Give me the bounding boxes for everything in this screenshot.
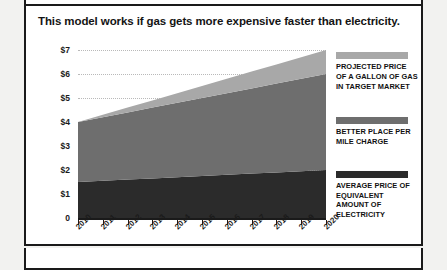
page-frame-bottom	[24, 248, 423, 270]
legend-swatch-charge	[336, 117, 408, 124]
y-tick-label: $7	[61, 45, 70, 55]
chart-card: This model works if gas gets more expens…	[24, 4, 423, 246]
chart-title: This model works if gas gets more expens…	[38, 15, 410, 27]
y-tick-label: 0	[65, 213, 70, 223]
legend-item-electricity: AVERAGE PRICE OF EQUIVALENT AMOUNT OF EL…	[336, 171, 418, 220]
chart-legend: PROJECTED PRICE OF A GALLON OF GAS IN TA…	[336, 52, 418, 232]
chart-page: This model works if gas gets more expens…	[0, 0, 447, 270]
legend-swatch-gas	[336, 52, 408, 59]
legend-item-gas: PROJECTED PRICE OF A GALLON OF GAS IN TA…	[336, 52, 418, 91]
y-tick-label: $4	[61, 117, 70, 127]
legend-label-charge: BETTER PLACE PER MILE CHARGE	[336, 127, 418, 147]
legend-label-electricity: AVERAGE PRICE OF EQUIVALENT AMOUNT OF EL…	[336, 181, 418, 220]
y-tick-label: $2	[61, 165, 70, 175]
y-tick-label: $5	[61, 93, 70, 103]
legend-item-charge: BETTER PLACE PER MILE CHARGE	[336, 117, 418, 147]
y-tick-label: $3	[61, 141, 70, 151]
legend-swatch-electricity	[336, 171, 408, 178]
y-axis: 0$1$2$3$4$5$6$7	[26, 50, 76, 218]
stacked-area-chart	[78, 50, 326, 218]
legend-label-gas: PROJECTED PRICE OF A GALLON OF GAS IN TA…	[336, 62, 418, 91]
plot-area	[78, 50, 326, 218]
y-tick-label: $1	[61, 189, 70, 199]
y-tick-label: $6	[61, 69, 70, 79]
